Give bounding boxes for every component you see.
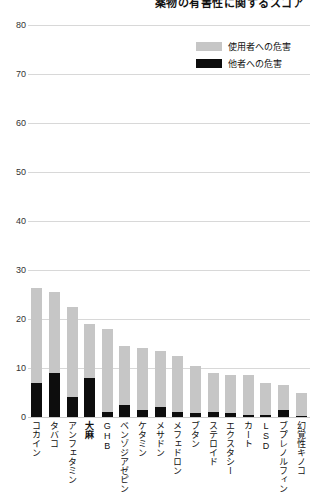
bar xyxy=(172,356,183,417)
x-axis-label: メサドン xyxy=(155,421,165,457)
bar-slot xyxy=(151,25,169,417)
bar-segment-harm-to-others xyxy=(84,378,95,417)
x-axis-label: ステロイド xyxy=(208,421,218,466)
x-axis-label: タバコ xyxy=(49,421,59,448)
x-axis-label: カート xyxy=(243,421,253,448)
bar xyxy=(278,385,289,417)
bar-slot xyxy=(204,25,222,417)
x-label-slot: 大麻 xyxy=(81,420,99,498)
bar-slot xyxy=(81,25,99,417)
bar-slot xyxy=(116,25,134,417)
bar-segment-harm-to-others xyxy=(260,415,271,417)
bar-segment-harm-to-others xyxy=(49,373,60,417)
bar-segment-harm-to-users xyxy=(155,351,166,407)
x-label-slot: 幻覚性キノコ xyxy=(292,420,310,498)
bars-group xyxy=(28,25,310,417)
bar xyxy=(84,324,95,417)
x-label-slot: ケタミン xyxy=(134,420,152,498)
y-axis-tick-30: 30 xyxy=(2,265,26,275)
bar-slot xyxy=(257,25,275,417)
harm-score-bar-chart: 薬物の有害性に関するスコア 使用者への危害 他者への危害 80706050403… xyxy=(0,0,310,500)
y-axis-tick-50: 50 xyxy=(2,167,26,177)
x-axis-labels: コカインタバコアンフェタミン大麻GHBベンゾジアゼピンケタミンメサドンメフェドロ… xyxy=(28,420,310,500)
x-label-slot: カート xyxy=(240,420,258,498)
x-axis-label: GHB xyxy=(102,421,112,451)
bar xyxy=(137,348,148,417)
x-axis-label: ベンゾジアゼピン xyxy=(120,421,130,493)
bar xyxy=(208,373,219,417)
bar xyxy=(296,393,307,417)
bar-slot xyxy=(99,25,117,417)
bar-slot xyxy=(46,25,64,417)
y-axis-tick-80: 80 xyxy=(2,20,26,30)
bar xyxy=(260,383,271,417)
bar-segment-harm-to-others xyxy=(243,415,254,417)
x-label-slot: メサドン xyxy=(151,420,169,498)
y-axis-tick-20: 20 xyxy=(2,314,26,324)
x-label-slot: GHB xyxy=(99,420,117,498)
bar-slot xyxy=(169,25,187,417)
x-axis-label: 大麻 xyxy=(85,421,95,439)
x-axis-label: コカイン xyxy=(32,421,42,457)
x-label-slot: アンフェタミン xyxy=(63,420,81,498)
y-axis-tick-70: 70 xyxy=(2,69,26,79)
bar-segment-harm-to-users xyxy=(296,393,307,416)
bar-segment-harm-to-users xyxy=(119,346,130,405)
x-label-slot: メフェドロン xyxy=(169,420,187,498)
bar-segment-harm-to-users xyxy=(190,366,201,414)
bar xyxy=(49,292,60,417)
bar-segment-harm-to-others xyxy=(172,412,183,417)
bar-segment-harm-to-others xyxy=(67,397,78,417)
bar-slot xyxy=(63,25,81,417)
plot-area: 80706050403020100 xyxy=(28,25,310,417)
chart-title: 薬物の有害性に関するスコア xyxy=(0,0,304,10)
bar-segment-harm-to-others xyxy=(208,412,219,417)
x-label-slot: エクスタシー xyxy=(222,420,240,498)
bar-segment-harm-to-users xyxy=(31,288,42,383)
bar-segment-harm-to-users xyxy=(260,383,271,415)
bar-segment-harm-to-others xyxy=(137,410,148,417)
bar xyxy=(102,329,113,417)
bar-slot xyxy=(134,25,152,417)
bar-segment-harm-to-users xyxy=(67,307,78,398)
x-axis-label: 幻覚性キノコ xyxy=(296,421,306,475)
bar-segment-harm-to-others xyxy=(155,407,166,417)
bar-slot xyxy=(187,25,205,417)
bar-segment-harm-to-users xyxy=(278,385,289,410)
x-label-slot: LSD xyxy=(257,420,275,498)
y-axis-tick-60: 60 xyxy=(2,118,26,128)
x-label-slot: ブプレノルフィン xyxy=(275,420,293,498)
bar-slot xyxy=(292,25,310,417)
x-axis-label: ブプレノルフィン xyxy=(279,421,289,493)
bar-segment-harm-to-users xyxy=(84,324,95,378)
bar-segment-harm-to-others xyxy=(190,413,201,417)
x-label-slot: コカイン xyxy=(28,420,46,498)
bar-segment-harm-to-users xyxy=(208,373,219,412)
bar xyxy=(31,288,42,417)
bar xyxy=(119,346,130,417)
x-axis-label: LSD xyxy=(261,421,271,451)
x-axis-label: メフェドロン xyxy=(173,421,183,475)
x-label-slot: ステロイド xyxy=(204,420,222,498)
bar xyxy=(225,375,236,417)
bar-segment-harm-to-users xyxy=(243,375,254,414)
bar-segment-harm-to-users xyxy=(49,292,60,373)
bar xyxy=(243,375,254,417)
bar-segment-harm-to-users xyxy=(225,375,236,413)
bar-slot xyxy=(240,25,258,417)
x-label-slot: ブタン xyxy=(187,420,205,498)
bar-segment-harm-to-others xyxy=(31,383,42,417)
bar-segment-harm-to-others xyxy=(102,412,113,417)
bar xyxy=(67,307,78,417)
bar xyxy=(155,351,166,417)
x-axis-label: ケタミン xyxy=(138,421,148,457)
y-axis-tick-10: 10 xyxy=(2,363,26,373)
bar-segment-harm-to-others xyxy=(119,405,130,417)
y-axis-tick-40: 40 xyxy=(2,216,26,226)
bar-segment-harm-to-users xyxy=(102,329,113,412)
bar-slot xyxy=(28,25,46,417)
x-axis-label: アンフェタミン xyxy=(67,421,77,484)
bar-segment-harm-to-others xyxy=(296,416,307,417)
bar-segment-harm-to-others xyxy=(278,410,289,417)
x-label-slot: タバコ xyxy=(46,420,64,498)
